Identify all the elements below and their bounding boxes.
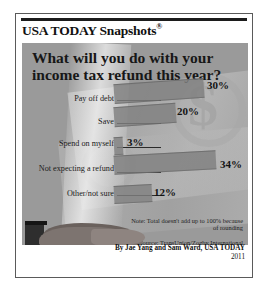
bar-label-save: Save: [30, 118, 114, 127]
bar-save: [113, 103, 176, 127]
masthead: USA TODAY Snapshots®: [19, 17, 249, 41]
bar-label-other-not-sure: Other/not sure: [30, 190, 114, 199]
bar-spend-on-myself: [114, 137, 124, 155]
bar-not-expecting-a-refund: [114, 150, 217, 174]
bar-other-not-sure: [114, 184, 153, 204]
bar-value-pay-off-debt: 30%: [207, 79, 229, 91]
page-title: What will you do with your income tax re…: [32, 49, 237, 83]
byline-year: 2011: [115, 253, 245, 262]
bar-value-spend-on-myself: 3%: [127, 136, 144, 148]
table-row: Save 20%: [22, 109, 248, 133]
registered-trademark-icon: ®: [156, 22, 162, 31]
bar-value-other-not-sure: 12%: [154, 186, 176, 198]
hand-fingers: [91, 229, 145, 245]
bar-value-save: 20%: [177, 105, 199, 117]
bar-label-spend-on-myself: Spend on myself: [30, 140, 114, 149]
byline: By Jae Yang and Sam Ward, USA TODAY 2011: [115, 244, 245, 262]
bar-label-pay-off-debt: Pay off debt: [30, 95, 114, 104]
masthead-rule: [21, 18, 247, 21]
bar-chart: Pay off debt 30% Save 20% Spend on mysel…: [22, 87, 248, 217]
bar-label-not-expecting-a-refund: Not expecting a refund: [30, 165, 114, 174]
snapshot-frame: USA TODAY Snapshots® $ What will you do …: [15, 13, 253, 278]
table-row: Not expecting a refund 34%: [22, 159, 248, 183]
chart-panel: $ What will you do with your income tax …: [22, 43, 248, 245]
outstretched-hand-icon: [25, 209, 151, 245]
sleeve-edge: [25, 221, 47, 225]
bar-value-not-expecting-a-refund: 34%: [220, 158, 242, 170]
table-row: Other/not sure 12%: [22, 183, 248, 207]
masthead-brand-text: USA TODAY Snapshots: [22, 23, 156, 38]
byline-credit: By Jae Yang and Sam Ward, USA TODAY: [115, 244, 245, 253]
masthead-brand: USA TODAY Snapshots®: [22, 22, 162, 39]
